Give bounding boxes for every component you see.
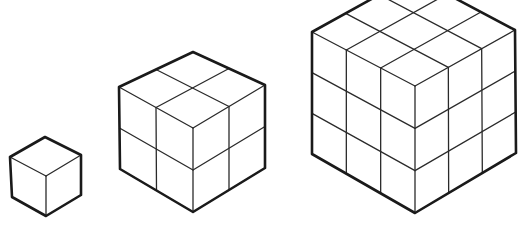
right-face-gridline (482, 49, 483, 173)
large-cube-3x3x3 (312, 0, 516, 213)
small-cube-1x1x1 (10, 137, 81, 216)
medium-cube-2x2x2 (119, 52, 265, 212)
cubes-diagram (0, 0, 526, 227)
cube-fill (312, 0, 516, 213)
